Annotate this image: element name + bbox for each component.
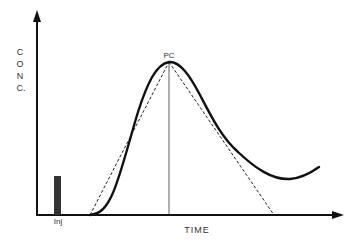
- y-axis-arrow-icon: [33, 10, 41, 22]
- ylabel-letter: C.: [17, 83, 26, 93]
- x-axis-arrow-icon: [332, 211, 344, 219]
- concentration-time-diagram: C O N C. TIME Inj PC: [0, 0, 355, 243]
- concentration-curve: [90, 62, 319, 215]
- injection-bar: [54, 176, 61, 215]
- x-axis-label: TIME: [184, 225, 210, 235]
- injection-label: Inj: [54, 217, 63, 226]
- ylabel-letter: N: [17, 71, 24, 81]
- ylabel-letter: O: [16, 59, 23, 69]
- y-axis-label: C O N C.: [16, 47, 25, 93]
- ylabel-letter: C: [17, 47, 24, 57]
- falling-tangent-line: [169, 62, 274, 215]
- peak-label: PC: [163, 51, 174, 60]
